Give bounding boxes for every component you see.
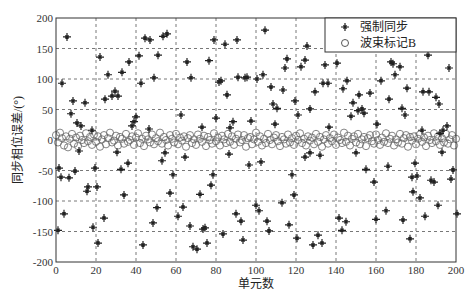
x-tick-label: 20 bbox=[91, 264, 103, 276]
y-axis-label: 同步相位误差/(°) bbox=[10, 96, 25, 184]
scatter-chart: 020406080100120140160180200 200150100500… bbox=[0, 0, 475, 308]
x-tick-label: 180 bbox=[408, 264, 425, 276]
legend-label-beam-marker-b: 波束标记B bbox=[360, 36, 416, 50]
legend: 强制同步 波束标记B bbox=[325, 18, 456, 52]
x-tick-label: 60 bbox=[171, 264, 183, 276]
y-tick-label: -200 bbox=[33, 256, 54, 268]
x-axis-label: 单元数 bbox=[238, 276, 274, 291]
legend-label-forced-sync: 强制同步 bbox=[360, 20, 408, 34]
x-tick-label: 100 bbox=[248, 264, 265, 276]
y-tick-label: 50 bbox=[42, 104, 54, 116]
y-tick-label: -50 bbox=[38, 165, 53, 177]
y-axis-ticks: 200150100500-50-100-150-200 bbox=[33, 12, 54, 268]
y-tick-label: 200 bbox=[37, 12, 54, 24]
x-tick-label: 0 bbox=[53, 264, 59, 276]
x-tick-label: 200 bbox=[448, 264, 465, 276]
x-tick-label: 40 bbox=[131, 264, 143, 276]
y-tick-label: -150 bbox=[33, 226, 54, 238]
x-tick-label: 160 bbox=[368, 264, 385, 276]
x-tick-label: 140 bbox=[328, 264, 345, 276]
y-tick-label: 150 bbox=[37, 43, 54, 55]
x-tick-label: 120 bbox=[288, 264, 305, 276]
y-tick-label: -100 bbox=[33, 195, 54, 207]
x-axis-ticks: 020406080100120140160180200 bbox=[53, 264, 465, 276]
y-tick-label: 0 bbox=[48, 134, 54, 146]
x-tick-label: 80 bbox=[211, 264, 223, 276]
y-tick-label: 100 bbox=[37, 73, 54, 85]
grid-lines bbox=[56, 18, 456, 262]
